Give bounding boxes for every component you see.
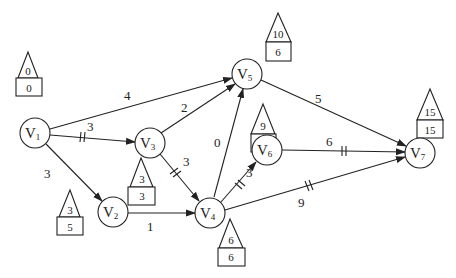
node-v5: V5 [232, 59, 262, 89]
early-time-v2: 3 [67, 204, 73, 216]
weight-v3-v4: 3 [183, 154, 190, 169]
weight-v4-v5: 0 [214, 135, 221, 150]
weight-v4-v6: 3 [246, 165, 253, 180]
late-time-v3: 3 [139, 190, 145, 202]
early-time-v7: 15 [425, 106, 437, 118]
node-v3: V3 [135, 128, 165, 158]
early-time-v3: 3 [139, 173, 145, 185]
late-time-v7: 15 [425, 124, 437, 136]
node-v4: V4 [195, 198, 225, 228]
weight-v4-v7: 9 [298, 195, 305, 210]
weight-v1-v2: 3 [44, 166, 51, 181]
early-time-v1: 0 [25, 65, 31, 77]
edge-v5-v7 [261, 80, 406, 146]
network-diagram: 4 3 3 2 3 1 0 3 [0, 0, 456, 278]
edge-v1-v3 [50, 135, 135, 142]
edge-v3-v5 [161, 84, 235, 133]
critical-mark-v1-v3 [80, 132, 85, 142]
node-v1: V1 [20, 118, 50, 148]
time-tag-v4: 6 6 [218, 219, 245, 266]
edge-v1-v2 [46, 144, 102, 201]
weight-v1-v5: 4 [124, 88, 131, 103]
time-tag-v1: 0 0 [16, 52, 42, 96]
time-tag-v7: 15 15 [417, 89, 443, 138]
weight-v6-v7: 6 [326, 134, 333, 149]
late-time-v2: 5 [67, 221, 73, 233]
weight-v5-v7: 5 [315, 91, 322, 106]
time-tag-v3: 3 3 [128, 158, 155, 205]
time-tag-v2: 3 5 [57, 190, 83, 235]
weight-v3-v5: 2 [181, 100, 188, 115]
edge-v6-v7 [282, 150, 405, 152]
node-v7: V7 [405, 138, 435, 168]
weight-v2-v4: 1 [147, 219, 154, 234]
edge-v3-v4 [160, 154, 199, 201]
node-v2: V2 [98, 197, 128, 227]
early-time-v6: 9 [260, 120, 266, 132]
weight-v1-v3: 3 [87, 119, 94, 134]
time-tag-v5: 10 6 [266, 13, 291, 61]
early-time-v5: 10 [273, 28, 285, 40]
early-time-v4: 6 [228, 234, 234, 246]
critical-mark-v4-v6 [235, 180, 245, 189]
late-time-v5: 6 [275, 46, 281, 58]
node-v6: V6 [252, 135, 282, 165]
late-time-v1: 0 [26, 82, 32, 94]
late-time-v4: 6 [228, 251, 234, 263]
